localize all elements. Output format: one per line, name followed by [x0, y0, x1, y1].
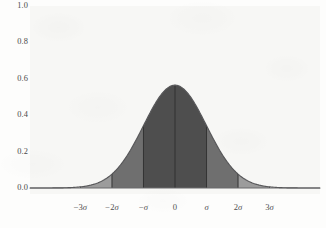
x-tick-label: −3σ: [65, 202, 95, 212]
x-axis-tick-labels: −3σ−2σ−σ0σ2σ3σ: [0, 0, 326, 228]
x-tick-label: −2σ: [97, 202, 127, 212]
x-tick-label: σ: [192, 202, 222, 212]
x-tick-label: 0: [160, 202, 190, 212]
x-tick-label: 3σ: [255, 202, 285, 212]
chart-figure: 1.00.80.60.40.20.0 −3σ−2σ−σ0σ2σ3σ: [0, 0, 326, 228]
x-tick-label: −σ: [129, 202, 159, 212]
x-tick-label: 2σ: [223, 202, 253, 212]
